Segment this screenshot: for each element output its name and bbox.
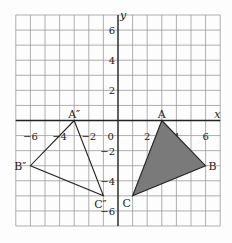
vertex-label-a: A (157, 108, 167, 121)
x-axis-label: x (214, 108, 221, 121)
vertex-label-b: B (209, 160, 217, 173)
coordinate-grid: xy0−6−4−2246642−2−4−6ABCA″B″C″ (0, 0, 232, 243)
y-tick-label: −4 (100, 176, 115, 187)
vertex-label-c: C (122, 197, 130, 210)
y-tick-label: 2 (109, 85, 115, 96)
y-tick-label: 6 (109, 25, 115, 36)
y-tick-label: −2 (100, 146, 115, 157)
vertex-label-c-double-prime: C″ (94, 198, 107, 211)
vertex-label-a-double-prime: A″ (67, 108, 80, 121)
origin-label: 0 (108, 131, 114, 142)
x-tick-label: −2 (81, 131, 96, 142)
x-tick-label: −6 (23, 131, 38, 142)
x-tick-label: 6 (202, 131, 208, 142)
vertex-label-b-double-prime: B″ (14, 160, 26, 173)
y-axis-label: y (119, 9, 127, 22)
x-tick-label: 2 (144, 131, 150, 142)
y-tick-label: 4 (109, 55, 115, 66)
